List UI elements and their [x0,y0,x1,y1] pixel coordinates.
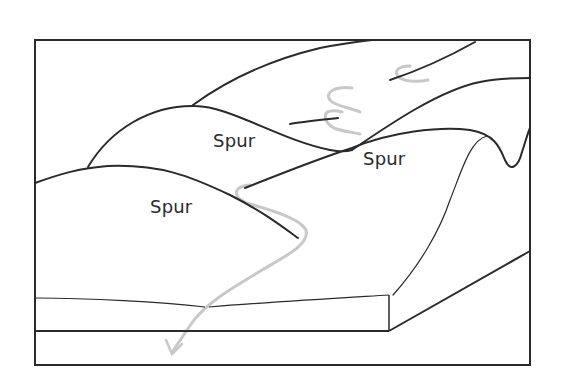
spur-diagram: Spur Spur Spur [0,0,563,390]
spur-label-right: Spur [363,148,405,169]
landscape-block-drawing [0,0,563,390]
spur-label-middle: Spur [213,130,255,151]
floodplain-block [35,251,530,331]
spur-label-left: Spur [150,196,192,217]
